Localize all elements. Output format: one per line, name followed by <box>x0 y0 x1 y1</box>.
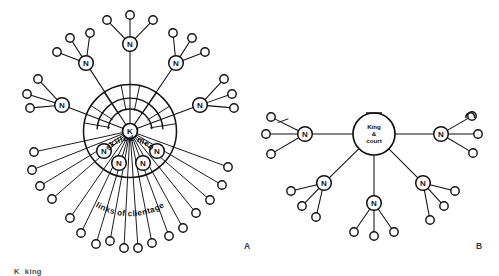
b-noble-0-client-2 <box>267 150 275 158</box>
b-noble-0-client-link-2 <box>275 138 299 152</box>
outer-noble-2-client-link-2 <box>183 53 201 60</box>
outer-noble-4-client-link-2 <box>207 106 230 108</box>
outer-noble-1-client-0 <box>53 48 61 56</box>
b-noble-2-client-link-2 <box>317 190 322 213</box>
outer-noble-3-client-1 <box>26 104 34 112</box>
king-and-court-line-1: & <box>372 130 377 137</box>
b-noble-3-label: N <box>371 199 377 208</box>
clientage-client-1-0 <box>66 214 74 222</box>
b-noble-3-client-link-2 <box>378 209 391 229</box>
outer-noble-1-client-1 <box>66 34 74 42</box>
outer-noble-3-client-link-0 <box>31 95 55 103</box>
king-and-court-line-2: court <box>366 137 381 144</box>
outer-noble-1-client-2 <box>86 29 94 37</box>
outer-noble-2-client-2 <box>201 48 209 56</box>
clientage-client-3-1 <box>206 196 214 204</box>
b-noble-4-client-link-2 <box>424 190 429 216</box>
king-and-court-line-0: King <box>367 123 381 130</box>
clientage-client-2-2 <box>179 224 187 232</box>
outer-noble-3-label: N <box>59 101 65 110</box>
court-to-noble-2 <box>329 149 359 178</box>
inner-noble-1-label: N <box>116 159 122 168</box>
b-noble-1-label: N <box>438 130 444 139</box>
outer-noble-3-client-0 <box>23 90 31 98</box>
inner-noble-3-label: N <box>154 147 160 156</box>
clientage-client-extra-4 <box>30 148 38 156</box>
b-noble-0-client-1 <box>262 130 270 138</box>
outer-noble-2-client-link-1 <box>180 42 190 57</box>
outer-noble-0-client-2 <box>149 16 157 24</box>
b-noble-3-client-2 <box>390 228 398 236</box>
network-diagram-svg: NNNNNNNNNK NNNNNKing&court skilled men l… <box>0 0 499 276</box>
figure-root: NNNNNNNNNK NNNNNKing&court skilled men l… <box>0 0 499 276</box>
outer-noble-4-client-link-1 <box>207 95 228 102</box>
b-noble-1-client-link-2 <box>447 138 469 151</box>
b-noble-0-client-link-0 <box>275 119 299 131</box>
clientage-client-3-0 <box>192 209 200 217</box>
b-noble-2-client-2 <box>312 213 320 221</box>
outer-noble-4-label: N <box>197 101 203 110</box>
outer-noble-2-client-link-0 <box>173 37 175 56</box>
b-noble-2-client-link-1 <box>305 188 319 203</box>
outer-noble-1-label: N <box>83 59 89 68</box>
clientage-client-1-1 <box>77 229 85 237</box>
outer-noble-0-client-0 <box>103 16 111 24</box>
outer-noble-0-client-link-2 <box>135 23 150 39</box>
skilled-men-arc-label: skilled men <box>104 134 157 152</box>
b-noble-1-client-2 <box>469 149 477 157</box>
b-noble-2-client-0 <box>287 187 295 195</box>
b-noble-4-client-link-1 <box>428 188 441 203</box>
clientage-client-0-2 <box>48 195 56 203</box>
clientage-client-extra-3 <box>224 163 232 171</box>
outer-noble-2-client-0 <box>169 29 177 37</box>
outer-noble-1-client-link-0 <box>61 53 79 60</box>
outer-noble-4-client-0 <box>220 75 228 83</box>
clientage-ray-extra-0 <box>124 137 129 243</box>
outer-noble-4-client-2 <box>230 104 238 112</box>
b-noble-4-client-link-0 <box>430 185 451 190</box>
clientage-client-2-0 <box>148 239 156 247</box>
b-noble-1-client-link-0 <box>447 118 468 130</box>
b-noble-2-client-1 <box>298 202 306 210</box>
outer-noble-3-client-link-1 <box>34 106 55 108</box>
clientage-client-extra-2 <box>106 237 114 245</box>
clientage-client-0-0 <box>28 166 36 174</box>
outer-noble-3-client-2 <box>34 75 42 83</box>
clientage-client-1-2 <box>92 240 100 248</box>
b-noble-2-label: N <box>321 179 327 188</box>
panel-b-group: NNNNNKing&court <box>262 112 482 240</box>
outer-noble-0-client-1 <box>126 11 134 19</box>
legend-key-k: K <box>14 267 20 276</box>
panel-label-b: B <box>476 241 482 251</box>
b-noble-4-client-0 <box>451 187 459 195</box>
outer-noble-3-client-link-2 <box>41 82 57 100</box>
clientage-client-3-2 <box>218 181 226 189</box>
court-to-noble-4 <box>389 149 418 178</box>
outer-noble-4-client-1 <box>228 90 236 98</box>
b-noble-3-client-link-0 <box>356 209 369 229</box>
outer-noble-0-label: N <box>127 40 133 49</box>
clientage-client-2-1 <box>165 232 173 240</box>
b-noble-3-client-0 <box>350 228 358 236</box>
panel-label-a: A <box>244 241 250 251</box>
b-noble-4-label: N <box>420 179 426 188</box>
legend-term-king: king <box>25 267 42 276</box>
outer-noble-2-client-1 <box>188 34 196 42</box>
outer-noble-4-client-link-0 <box>205 82 221 100</box>
clientage-client-extra-1 <box>134 244 142 252</box>
clientage-client-extra-0 <box>120 244 128 252</box>
skilled-men-textpath: skilled men <box>104 134 157 152</box>
b-noble-4-client-1 <box>440 202 448 210</box>
inner-noble-2-label: N <box>140 159 146 168</box>
outer-noble-1-client-link-1 <box>72 42 82 57</box>
b-noble-0-client-0 <box>267 113 275 121</box>
b-noble-4-client-2 <box>426 216 434 224</box>
outer-noble-2-label: N <box>173 59 179 68</box>
outer-noble-0-client-link-0 <box>110 23 125 39</box>
b-noble-2-client-link-0 <box>295 185 317 190</box>
clientage-client-0-1 <box>36 182 44 190</box>
b-noble-3-client-1 <box>370 232 378 240</box>
legend-line: Kking <box>14 267 42 276</box>
b-noble-0-label: N <box>302 130 308 139</box>
b-noble-1-client-1 <box>474 130 482 138</box>
